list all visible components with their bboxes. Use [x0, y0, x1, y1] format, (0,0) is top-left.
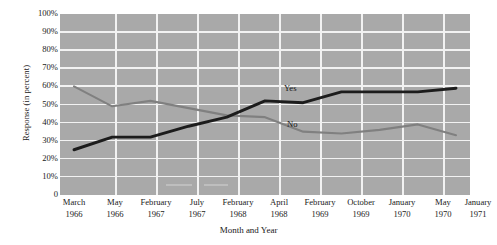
x-tick-label: January1971	[443, 197, 497, 220]
x-axis-tick-labels: March1966 May1966 February1967 July1967 …	[0, 197, 497, 227]
y-tick-label: 100%	[18, 9, 58, 18]
y-tick-label: 80%	[18, 45, 58, 54]
series-label-yes: Yes	[284, 84, 297, 93]
y-tick-label: 70%	[18, 63, 58, 72]
y-tick-label: 20%	[18, 154, 58, 163]
x-tick-month: January	[443, 197, 497, 209]
y-tick-label: 10%	[18, 172, 58, 181]
series-line-yes	[74, 88, 456, 150]
x-axis-title: Month and Year	[0, 225, 497, 235]
y-tick-label: 50%	[18, 100, 58, 109]
series-lines	[60, 14, 470, 195]
line-chart: Response (in percent) 100% 90% 80% 70% 6…	[0, 0, 497, 245]
x-tick-year: 1971	[443, 209, 497, 221]
plot-area	[60, 14, 470, 195]
y-tick-label: 90%	[18, 27, 58, 36]
series-label-no: No	[287, 120, 298, 129]
y-tick-label: 40%	[18, 118, 58, 127]
y-tick-label: 30%	[18, 136, 58, 145]
y-tick-label: 60%	[18, 81, 58, 90]
series-line-no	[74, 86, 456, 135]
